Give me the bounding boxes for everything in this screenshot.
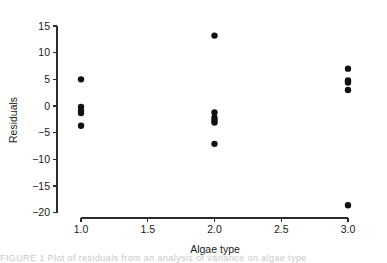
x-tick-label: 2.0: [207, 223, 222, 235]
data-point: [211, 141, 217, 147]
data-point: [345, 202, 351, 208]
x-tick-label: 2.5: [274, 223, 289, 235]
data-points-layer: [78, 32, 351, 208]
y-axis-title: Residuals: [7, 97, 19, 143]
x-tick-label: 3.0: [341, 223, 356, 235]
y-tick-label: 10: [38, 46, 50, 58]
data-point: [78, 123, 84, 129]
y-tick-label: 5: [44, 73, 50, 85]
x-tick-label: 1.5: [140, 223, 155, 235]
y-tick-label: −15: [32, 180, 50, 192]
y-tick-label: −20: [32, 206, 50, 218]
data-point: [78, 76, 84, 82]
y-axis: 151050−5−10−15−20: [32, 20, 57, 219]
x-tick-label: 1.0: [74, 223, 89, 235]
data-point: [78, 110, 84, 116]
y-tick-label: 0: [44, 100, 50, 112]
data-point: [345, 79, 351, 85]
scatter-plot: 151050−5−10−15−20 1.01.52.02.53.0 Residu…: [0, 0, 387, 263]
data-point: [211, 119, 217, 125]
data-point: [211, 32, 217, 38]
y-tick-label: −5: [38, 126, 50, 138]
data-point: [345, 87, 351, 93]
residuals-scatter-figure: 151050−5−10−15−20 1.01.52.02.53.0 Residu…: [0, 0, 387, 263]
x-axis: 1.01.52.02.53.0: [74, 218, 356, 235]
data-point: [345, 65, 351, 71]
figure-caption-fragment: FIGURE 1 Plot of residuals from an analy…: [0, 253, 387, 263]
y-tick-label: 15: [38, 20, 50, 32]
y-tick-label: −10: [32, 153, 50, 165]
